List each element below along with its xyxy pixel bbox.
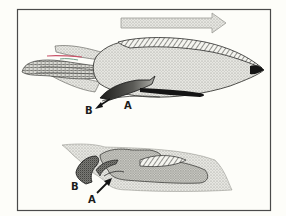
top-label-b: B	[85, 106, 93, 116]
bottom-label-b: B	[71, 182, 79, 192]
squid-jet-propulsion-diagram	[0, 0, 286, 216]
bottom-label-a: A	[88, 195, 96, 205]
figure-canvas: B A B A	[0, 0, 286, 216]
top-label-a: A	[124, 101, 132, 111]
